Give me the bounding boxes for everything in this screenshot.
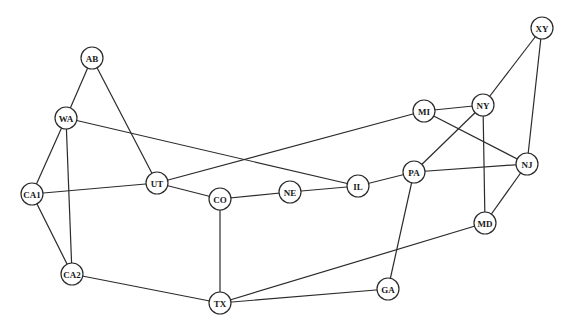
node-label: PA [408,168,420,178]
node-label: NY [477,101,490,111]
node-co: CO [209,188,231,210]
edge-mi-nj [424,111,527,164]
node-label: CA1 [23,190,41,200]
edge-ca2-tx [72,274,220,303]
node-label: WA [59,114,74,124]
node-label: GA [381,285,395,295]
node-label: TX [214,299,227,309]
node-ne: NE [279,181,301,203]
node-label: MD [478,219,493,229]
nodes-layer: ABWACA1CA2UTCONEILPAMINYXYNJMDTXGA [21,17,553,314]
edge-ny-md [483,105,485,223]
edge-ca1-ut [32,183,157,194]
edge-wa-ca2 [66,118,72,274]
node-ab: AB [81,47,103,69]
edges-layer [32,28,542,303]
node-wa: WA [55,107,77,129]
node-label: MI [418,107,430,117]
node-label: XY [536,24,549,34]
edge-wa-ca1 [32,118,66,194]
graph-diagram: ABWACA1CA2UTCONEILPAMINYXYNJMDTXGA [0,0,571,333]
node-xy: XY [531,17,553,39]
edge-md-tx [220,223,485,303]
node-ga: GA [377,278,399,300]
node-label: IL [353,182,363,192]
edge-pa-nj [414,164,527,172]
edge-ab-ut [92,58,157,183]
node-ca2: CA2 [61,263,83,285]
edge-ca1-ca2 [32,194,72,274]
node-tx: TX [209,292,231,314]
node-il: IL [347,175,369,197]
edge-xy-nj [527,28,542,164]
node-label: NE [284,188,297,198]
node-label: NJ [522,160,533,170]
node-mi: MI [413,100,435,122]
node-label: CO [213,195,227,205]
node-pa: PA [403,161,425,183]
edge-pa-ga [388,172,414,289]
node-label: AB [86,54,99,64]
edge-wa-il [66,118,358,186]
node-ca1: CA1 [21,183,43,205]
node-label: CA2 [63,270,81,280]
node-nj: NJ [516,153,538,175]
edge-ut-mi [157,111,424,183]
node-ut: UT [146,172,168,194]
node-md: MD [474,212,496,234]
node-label: UT [151,179,164,189]
edge-ny-xy [483,28,542,105]
node-ny: NY [472,94,494,116]
